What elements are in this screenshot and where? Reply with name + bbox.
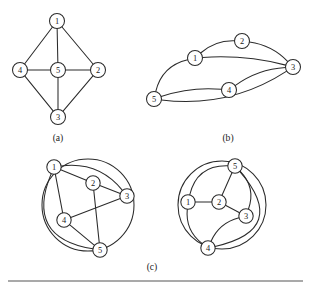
graph-c-right-edge-3-4 bbox=[211, 218, 239, 242]
graph-c-left-node-2: 2 bbox=[86, 176, 100, 190]
caption-b: (b) bbox=[222, 132, 233, 144]
figure-root: 12345123451234512345 (a)(b)(c) bbox=[0, 0, 311, 291]
graph-c-left-edge-1-2 bbox=[61, 170, 87, 181]
graph-c-left-node-label-3: 3 bbox=[125, 192, 129, 201]
graph-b-node-5: 5 bbox=[147, 92, 162, 107]
graph-b-node-label-3: 3 bbox=[291, 63, 295, 72]
graph-a-edge-1-2 bbox=[62, 27, 93, 65]
graph-c-left-edge-2-3 bbox=[100, 186, 121, 194]
graph-c-left-node-label-1: 1 bbox=[52, 163, 56, 172]
graph-a-node-label-1: 1 bbox=[55, 17, 59, 26]
graph-a-edge-4-3 bbox=[25, 76, 54, 111]
graph-c-right-edge-5-3 bbox=[240, 171, 251, 209]
caption-a: (a) bbox=[53, 132, 64, 144]
graph-b-node-4: 4 bbox=[222, 83, 237, 98]
graph-b-node-3: 3 bbox=[286, 60, 301, 75]
graph-b-node-label-2: 2 bbox=[240, 37, 244, 46]
graph-c-right-node-1: 1 bbox=[181, 195, 195, 209]
graph-a-edge-3-2 bbox=[63, 76, 93, 112]
graph-b-edge-5-1 bbox=[156, 60, 188, 92]
graph-c-right-node-5: 5 bbox=[228, 159, 242, 173]
graph-c-right-node-2: 2 bbox=[212, 195, 226, 209]
graph-a-node-label-2: 2 bbox=[96, 66, 100, 75]
graph-c-left-edge-4-5 bbox=[70, 225, 95, 246]
graph-c-right-node-label-3: 3 bbox=[244, 212, 248, 221]
graph-c-left-node-4: 4 bbox=[57, 213, 71, 227]
graph-a-node-4: 4 bbox=[13, 63, 28, 78]
graph-c-left-node-label-5: 5 bbox=[98, 246, 102, 255]
graph-a-edge-1-5 bbox=[57, 29, 58, 63]
graph-c-left-node-5: 5 bbox=[93, 243, 107, 257]
graph-b-node-1: 1 bbox=[188, 51, 203, 66]
graph-c-left-edge-2-5 bbox=[94, 190, 100, 243]
graph-c-right-node-label-2: 2 bbox=[217, 198, 221, 207]
graph-a-node-1: 1 bbox=[50, 14, 65, 29]
graph-c-right-node-label-5: 5 bbox=[233, 162, 237, 171]
graph-c-left-node-label-2: 2 bbox=[91, 179, 95, 188]
graph-c-left-edge-1-4 bbox=[55, 174, 62, 213]
graph-a-edge-1-4 bbox=[25, 27, 53, 64]
graph-a-node-3: 3 bbox=[51, 110, 66, 125]
graph-b-edge-5-4 bbox=[161, 89, 221, 97]
graph-figure-canvas: 12345123451234512345 (a)(b)(c) bbox=[0, 0, 311, 291]
graph-c-right-node-label-1: 1 bbox=[186, 198, 190, 207]
graph-c-right-edge-2-5 bbox=[222, 173, 232, 196]
graph-b-edge-1-3 bbox=[202, 57, 285, 65]
graph-c-right-edge-2-3 bbox=[225, 205, 239, 212]
graph-c-left-edge-3-4 bbox=[71, 199, 121, 218]
graph-a-node-2: 2 bbox=[91, 63, 106, 78]
graph-c-right-edge-1-4 bbox=[187, 209, 202, 243]
graph-a-node-5: 5 bbox=[51, 63, 66, 78]
graph-c-left-node-1: 1 bbox=[47, 160, 61, 174]
graph-b-node-2: 2 bbox=[235, 34, 250, 49]
graph-a-node-label-5: 5 bbox=[56, 66, 60, 75]
graph-b-node-label-5: 5 bbox=[152, 95, 156, 104]
graph-c-right-node-4: 4 bbox=[201, 241, 215, 255]
graph-a-node-label-3: 3 bbox=[56, 113, 60, 122]
graph-c-left-node-3: 3 bbox=[120, 189, 134, 203]
graph-b-node-label-1: 1 bbox=[193, 54, 197, 63]
graph-c-right-node-3: 3 bbox=[239, 209, 253, 223]
graph-b-edge-1-2 bbox=[201, 41, 235, 53]
caption-c: (c) bbox=[147, 261, 158, 273]
